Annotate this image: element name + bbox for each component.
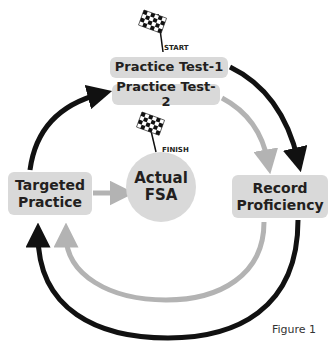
practice-test-2-node: Practice Test-2: [112, 84, 220, 105]
record-proficiency-node: Record Proficiency: [232, 175, 328, 218]
targeted-practice-label-line2: Practice: [18, 194, 82, 210]
targeted-practice-node: Targeted Practice: [8, 172, 92, 215]
targeted-practice-label-line1: Targeted: [15, 177, 85, 193]
record-proficiency-label-line1: Record: [252, 180, 307, 196]
start-flag-icon: [139, 10, 167, 52]
practice-test-2-label: Practice Test-2: [112, 80, 220, 110]
arrow-record-to-targeted-outer: [38, 220, 298, 338]
practice-test-1-node: Practice Test-1: [110, 57, 228, 78]
arrow-targeted-to-pt2: [30, 94, 100, 170]
start-label: START: [164, 44, 189, 52]
arrow-pt2-to-record: [222, 98, 268, 162]
figure-caption: Figure 1: [272, 323, 316, 336]
finish-flag-icon: [137, 112, 165, 152]
practice-test-1-label: Practice Test-1: [115, 60, 224, 75]
actual-fsa-label-line2: FSA: [145, 187, 178, 204]
actual-fsa-node: Actual FSA: [126, 152, 196, 222]
record-proficiency-label-line2: Proficiency: [236, 197, 323, 213]
arrow-record-to-targeted-inner: [66, 222, 264, 300]
actual-fsa-label-line1: Actual: [134, 170, 188, 187]
